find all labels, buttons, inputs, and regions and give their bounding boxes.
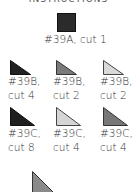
piece-label-39c-1: #39C, cut 8 xyxy=(8,126,41,154)
page-header: INSTRUCTIONS xyxy=(0,0,137,4)
piece-cut-count: cut 2 xyxy=(100,88,132,102)
piece-cut-count: cut 4 xyxy=(100,140,133,154)
triangle-piece-39c-dark xyxy=(10,107,35,126)
piece-label-39c-2: #39C, cut 4 xyxy=(53,126,86,154)
piece-label-39b-3: #39B, cut 2 xyxy=(100,74,132,102)
piece-cut-count: cut 8 xyxy=(8,140,41,154)
piece-label-39b-1: #39B, cut 4 xyxy=(8,74,40,102)
piece-label-39b-2: #39B, cut 2 xyxy=(53,74,85,102)
triangle-piece-39b-light xyxy=(103,60,124,75)
piece-code: #39B, xyxy=(8,74,40,88)
piece-label-39a: #39A, cut 1 xyxy=(44,32,107,46)
piece-code: #39C, xyxy=(8,126,41,140)
triangle-piece-39b-medium xyxy=(56,60,77,75)
triangle-piece-partial xyxy=(32,171,62,192)
piece-code: #39C, xyxy=(100,126,133,140)
square-piece-39a xyxy=(57,13,76,32)
piece-cut-count: cut 4 xyxy=(53,140,86,154)
piece-code: #39B, xyxy=(53,74,85,88)
triangle-piece-39c-medium xyxy=(103,107,128,126)
piece-code: #39B, xyxy=(100,74,132,88)
piece-label-39c-3: #39C, cut 4 xyxy=(100,126,133,154)
triangle-piece-39c-light xyxy=(56,107,81,126)
triangle-piece-39b-dark xyxy=(10,60,31,75)
piece-code: #39C, xyxy=(53,126,86,140)
piece-cut-count: cut 2 xyxy=(53,88,85,102)
piece-cut-count: cut 4 xyxy=(8,88,40,102)
